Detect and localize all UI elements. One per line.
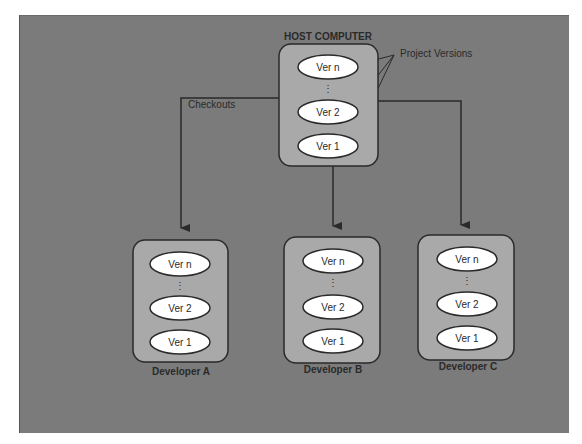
developer-c-ellipsis: ⋮ xyxy=(462,275,472,286)
host-version-n-label: Ver n xyxy=(316,62,339,73)
developer-a-ellipsis: ⋮ xyxy=(175,280,185,291)
developer-b-ellipsis: ⋮ xyxy=(328,277,338,288)
version-control-diagram: Project Versions Checkouts HOST COMPUTER… xyxy=(0,0,582,444)
developer-c: Ver n ⋮ Ver 2 Ver 1 Developer C xyxy=(418,235,514,372)
host-version-2-label: Ver 2 xyxy=(316,107,340,118)
developer-b: Ver n ⋮ Ver 2 Ver 1 Developer B xyxy=(284,237,380,375)
developer-b-version-n-label: Ver n xyxy=(321,256,344,267)
developer-a: Ver n ⋮ Ver 2 Ver 1 Developer A xyxy=(133,240,228,377)
developer-b-label: Developer B xyxy=(304,364,362,375)
developer-c-version-1-label: Ver 1 xyxy=(455,333,479,344)
developer-b-version-1-label: Ver 1 xyxy=(321,336,345,347)
host-version-1-label: Ver 1 xyxy=(316,141,340,152)
host-computer: HOST COMPUTER Ver n ⋮ Ver 2 Ver 1 xyxy=(279,31,378,166)
arrow-to-developer-c xyxy=(378,101,461,225)
developer-c-version-n-label: Ver n xyxy=(455,254,478,265)
arrow-to-developer-a xyxy=(181,98,279,228)
host-ellipsis: ⋮ xyxy=(323,83,333,94)
developer-a-version-2-label: Ver 2 xyxy=(168,303,192,314)
developer-b-version-2-label: Ver 2 xyxy=(321,302,345,313)
developer-c-label: Developer C xyxy=(439,361,497,372)
project-versions-label: Project Versions xyxy=(400,48,472,59)
host-computer-title: HOST COMPUTER xyxy=(284,31,373,42)
developer-c-version-2-label: Ver 2 xyxy=(455,299,479,310)
developer-a-label: Developer A xyxy=(152,366,210,377)
developer-a-version-n-label: Ver n xyxy=(168,259,191,270)
checkouts-label: Checkouts xyxy=(188,99,235,110)
developer-a-version-1-label: Ver 1 xyxy=(168,337,192,348)
